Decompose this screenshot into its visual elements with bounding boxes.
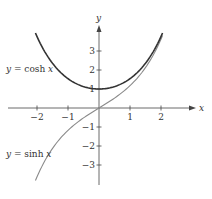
x-tick-label: −2 [30, 112, 43, 122]
x-axis-label: x [199, 103, 204, 113]
y-axis: y [95, 13, 102, 185]
y-tick-label: −2 [82, 141, 95, 151]
y-tick-label: 2 [89, 65, 95, 75]
x-tick-label: 1 [127, 112, 133, 122]
cosh-label: y = cosh x [5, 64, 53, 74]
y-axis-label: y [95, 13, 102, 23]
y-axis-arrow-icon [97, 25, 102, 32]
sinh-label: y = sinh x [5, 149, 51, 159]
y-tick-label: −3 [82, 160, 96, 170]
x-axis-arrow-icon [189, 106, 196, 111]
x-tick-label: −1 [61, 112, 74, 122]
chart-canvas: x y −2−112 321−1−2−3 y = cosh x y = sinh… [0, 0, 212, 199]
x-tick-label: 2 [158, 112, 164, 122]
y-tick-label: −1 [82, 122, 95, 132]
y-tick-label: 3 [89, 46, 95, 56]
